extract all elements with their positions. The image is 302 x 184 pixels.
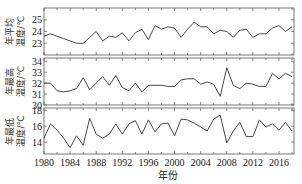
x-tick-label: 2000 [165,157,185,168]
y-axis-label-line1: 年平均 [4,18,15,45]
y-tick-label: 33 [32,67,42,78]
series-line [44,22,292,43]
plot-frame [44,58,294,105]
panel-1: 232425年平均温度/℃ [4,8,294,55]
x-tick-label: 2008 [217,157,237,168]
plot-frame [44,8,294,55]
panel-3: 141618年最低温度/℃198019841988199219962000200… [4,105,294,168]
y-tick-label: 16 [32,121,42,132]
x-tick-label: 1992 [112,157,132,168]
x-tick-label: 2004 [191,157,211,168]
y-tick-label: 14 [32,137,42,148]
panel-2: 3031323334年最高温度/℃ [4,56,294,111]
series-line [44,115,292,148]
plot-frame [44,108,294,154]
y-axis-label-line2: 温度/℃ [15,66,26,97]
y-tick-label: 34 [32,56,42,67]
chart-panels: 232425年平均温度/℃3031323334年最高温度/℃141618年最低温… [4,8,294,168]
y-tick-label: 23 [32,38,42,49]
x-tick-label: 1996 [138,157,158,168]
temperature-chart: 232425年平均温度/℃3031323334年最高温度/℃141618年最低温… [0,0,302,184]
x-axis-label: 年份 [158,169,178,181]
y-axis-label-line1: 年最高 [4,68,15,95]
y-tick-label: 25 [32,14,42,25]
y-tick-label: 32 [32,78,42,89]
x-tick-label: 2016 [269,157,289,168]
y-axis-label-line2: 温度/℃ [15,16,26,47]
y-axis-label-line2: 温度/℃ [15,115,26,146]
x-tick-label: 1980 [34,157,54,168]
y-tick-label: 18 [32,105,42,116]
y-axis-label-line1: 年最低 [4,118,15,145]
y-tick-label: 31 [32,89,42,100]
x-tick-label: 2012 [243,157,263,168]
y-tick-label: 24 [32,26,42,37]
x-tick-label: 1988 [86,157,106,168]
series-line [44,68,292,97]
x-tick-label: 1984 [60,157,80,168]
